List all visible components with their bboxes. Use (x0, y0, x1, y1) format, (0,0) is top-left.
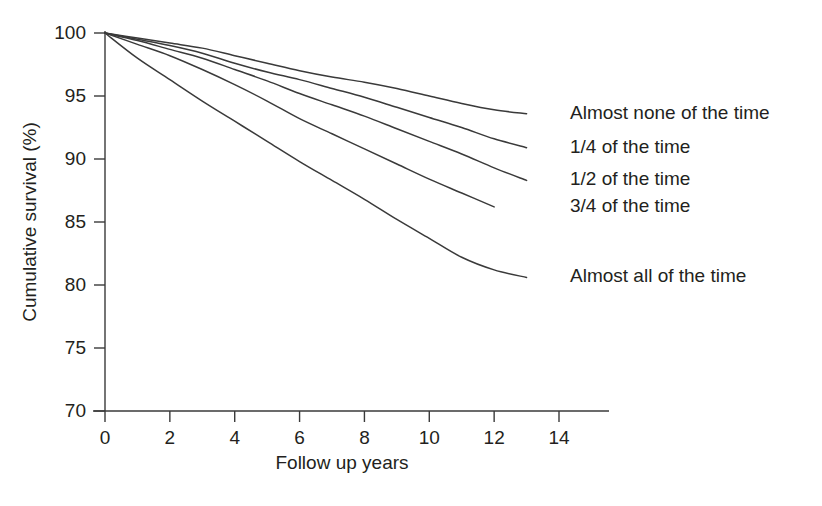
y-tick-label-85: 85 (65, 211, 86, 232)
x-tick-label-4: 4 (229, 427, 240, 448)
y-tick-label-80: 80 (65, 274, 86, 295)
x-tick-label-6: 6 (294, 427, 305, 448)
y-tick-label-70: 70 (65, 400, 86, 421)
x-tick-label-0: 0 (100, 427, 111, 448)
y-tick-label-75: 75 (65, 337, 86, 358)
x-axis-ticks: 02468101214 (100, 411, 570, 448)
x-tick-label-10: 10 (419, 427, 440, 448)
x-tick-label-2: 2 (165, 427, 176, 448)
series-labels: Almost none of the time1/4 of the time1/… (570, 102, 770, 287)
survival-chart: 707580859095100 02468101214 Almost none … (0, 0, 822, 506)
curve-1 (105, 33, 527, 148)
x-tick-label-14: 14 (548, 427, 570, 448)
survival-curves (105, 33, 527, 277)
series-label-3: 3/4 of the time (570, 195, 690, 216)
y-tick-label-100: 100 (54, 22, 86, 43)
series-label-0: Almost none of the time (570, 102, 770, 123)
y-tick-label-90: 90 (65, 148, 86, 169)
series-label-2: 1/2 of the time (570, 168, 690, 189)
y-axis-ticks: 707580859095100 (54, 22, 105, 421)
y-tick-label-95: 95 (65, 85, 86, 106)
x-tick-label-12: 12 (484, 427, 505, 448)
series-label-4: Almost all of the time (570, 265, 746, 286)
x-tick-label-8: 8 (359, 427, 370, 448)
y-axis-title: Cumulative survival (%) (19, 122, 40, 322)
x-axis-title: Follow up years (275, 452, 408, 473)
chart-canvas: 707580859095100 02468101214 Almost none … (0, 0, 822, 506)
series-label-1: 1/4 of the time (570, 136, 690, 157)
